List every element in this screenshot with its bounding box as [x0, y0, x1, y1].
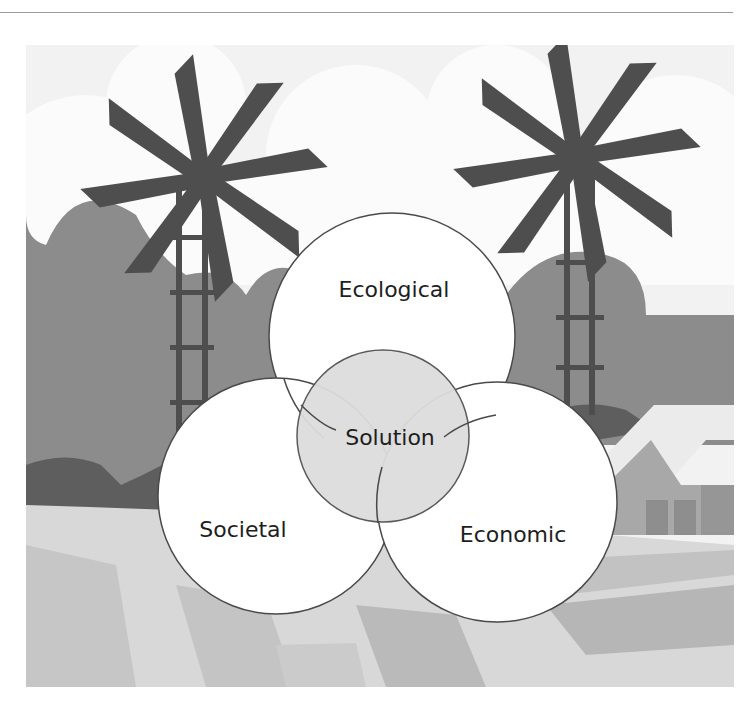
solution-label: Solution [345, 425, 435, 450]
economic-label: Economic [460, 522, 567, 547]
societal-label: Societal [199, 517, 286, 542]
ecological-label: Ecological [339, 277, 450, 302]
sustainability-diagram-figure: Ecological Societal Economic Solution [26, 45, 734, 687]
page-header-rule [0, 12, 733, 13]
